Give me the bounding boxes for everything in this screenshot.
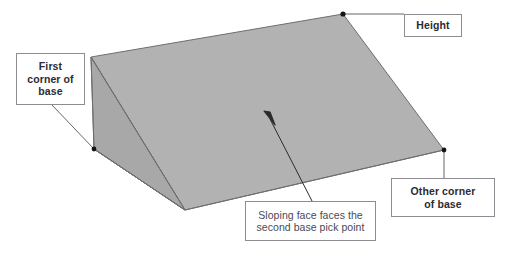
callout-first-corner-of-base: First corner of base	[16, 53, 85, 105]
other-corner-of-base-marker	[442, 148, 447, 153]
callout-first-corner-line2: corner of	[27, 73, 73, 85]
callout-sloping-face-line1: Sloping face faces the	[257, 209, 365, 221]
callout-other-corner-line2: of base	[411, 198, 476, 210]
callout-other-corner-line1: Other corner	[411, 185, 476, 197]
callout-height-label: Height	[405, 19, 461, 31]
callout-height: Height	[404, 14, 462, 37]
callout-first-corner-line3: base	[27, 85, 73, 97]
leader-line-first-corner	[52, 105, 94, 149]
figure-canvas: First corner of base Height Other corner…	[0, 0, 507, 253]
callout-first-corner-line1: First	[27, 60, 73, 72]
height-apex-marker	[340, 11, 345, 16]
callout-other-corner-of-base: Other corner of base	[391, 178, 495, 217]
first-corner-of-base-marker	[92, 147, 97, 152]
callout-sloping-face-line2: second base pick point	[257, 221, 365, 233]
callout-sloping-face-note: Sloping face faces the second base pick …	[245, 201, 376, 241]
